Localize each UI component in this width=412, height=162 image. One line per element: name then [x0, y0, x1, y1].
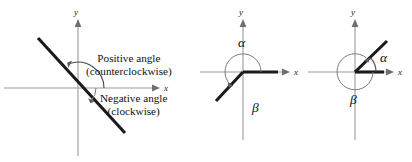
- y-axis-arrowhead: [352, 19, 359, 27]
- positive-angle-arrowhead: [67, 60, 72, 68]
- negative-angle-label: Negative angle (clockwise): [100, 92, 167, 117]
- panel-1-canvas: x y: [0, 0, 200, 162]
- positive-angle-label-line1: Positive angle: [86, 52, 172, 65]
- beta-label: β: [349, 92, 357, 107]
- negative-angle-label-line1: Negative angle: [100, 92, 167, 105]
- x-axis-arrowhead: [152, 85, 160, 92]
- y-axis-arrowhead: [240, 19, 247, 27]
- negative-angle-label-line2: (clockwise): [100, 105, 167, 118]
- y-axis-label: y: [73, 7, 78, 17]
- positive-angle-label-line2: (counterclockwise): [86, 65, 172, 78]
- alpha-label: α: [380, 50, 388, 65]
- beta-label: β: [251, 100, 259, 115]
- panel-3-canvas: α β x y: [308, 0, 412, 162]
- panel-2-canvas: α β x y: [200, 0, 308, 162]
- positive-and-negative-angle-panel: x y Positive angle (counterclockwise) Ne…: [0, 0, 200, 162]
- x-axis-arrowhead: [386, 69, 394, 76]
- y-axis-arrowhead: [75, 19, 82, 27]
- alpha-angle-arc: [371, 58, 377, 72]
- third-quadrant-coterminal-panel: α β x y: [200, 0, 308, 162]
- x-axis-label: x: [397, 67, 402, 77]
- angle-diagram-figure: x y Positive angle (counterclockwise) Ne…: [0, 0, 412, 162]
- positive-angle-label: Positive angle (counterclockwise): [86, 52, 172, 77]
- x-axis-arrowhead: [282, 69, 290, 76]
- y-axis-label: y: [350, 7, 355, 17]
- first-quadrant-coterminal-panel: α β x y: [308, 0, 412, 162]
- x-axis-label: x: [293, 67, 298, 77]
- alpha-label: α: [238, 35, 246, 50]
- y-axis-label: y: [238, 7, 243, 17]
